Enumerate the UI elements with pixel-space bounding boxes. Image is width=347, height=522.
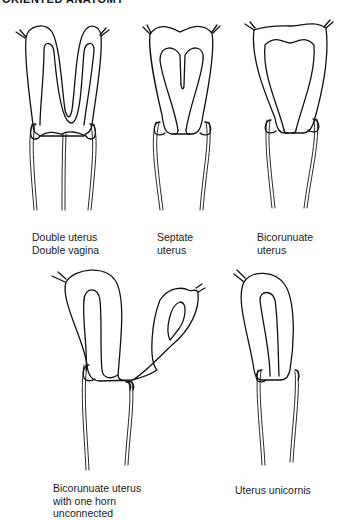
uterine-anomalies-illustration bbox=[0, 0, 347, 522]
label-double-uterus: Double uterus Double vagina bbox=[32, 231, 99, 256]
label-bicornuate-unconnected: Bicorunuate uterus with one horn unconne… bbox=[53, 482, 141, 520]
uterus-unicornis-drawing bbox=[234, 270, 299, 465]
bicornuate-uterus-drawing bbox=[245, 20, 333, 208]
label-uterus-unicornis: Uterus unicornis bbox=[235, 484, 311, 497]
bicornuate-unconnected-drawing bbox=[52, 270, 205, 470]
septate-uterus-drawing bbox=[143, 25, 220, 210]
label-septate-uterus: Septate uterus bbox=[157, 231, 193, 256]
double-uterus-drawing bbox=[16, 26, 109, 210]
label-bicornuate-uterus: Bicorunuate uterus bbox=[257, 231, 313, 256]
